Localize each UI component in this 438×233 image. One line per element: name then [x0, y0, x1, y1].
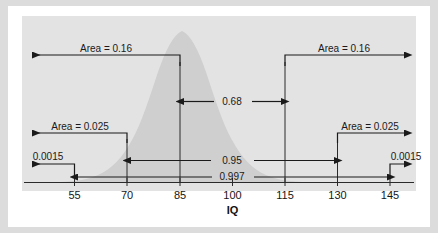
figure-root: Area = 0.16 Area = 0.16 0.68 Area = 0.02… [0, 0, 438, 233]
label-interval-0997: 0.997 [219, 172, 244, 182]
label-area-left-00015: 0.0015 [33, 152, 64, 162]
x-tick-label-70: 70 [121, 190, 133, 201]
normal-distribution-chart [0, 0, 438, 233]
annotation-area-left-016 [32, 55, 180, 66]
annotation-area-right-00015 [390, 164, 404, 178]
x-tick-label-85: 85 [174, 190, 186, 201]
label-interval-068: 0.68 [222, 97, 241, 107]
annotation-area-left-0025 [32, 133, 127, 143]
label-area-right-00015: 0.0015 [391, 152, 422, 162]
label-area-left-0025: Area = 0.025 [51, 122, 109, 132]
x-tick-label-100: 100 [223, 190, 241, 201]
x-tick-label-55: 55 [68, 190, 80, 201]
annotation-area-left-00015 [32, 164, 75, 178]
label-area-right-016: Area = 0.16 [318, 44, 370, 54]
x-axis-title: IQ [227, 205, 239, 216]
x-tick-label-145: 145 [381, 190, 399, 201]
label-area-left-016: Area = 0.16 [80, 44, 132, 54]
label-area-right-0025: Area = 0.025 [341, 122, 399, 132]
x-tick-label-115: 115 [276, 190, 294, 201]
annotation-area-right-0025 [338, 133, 405, 143]
x-tick-label-130: 130 [328, 190, 346, 201]
label-interval-095: 0.95 [222, 156, 241, 166]
annotation-area-right-016 [285, 55, 404, 66]
